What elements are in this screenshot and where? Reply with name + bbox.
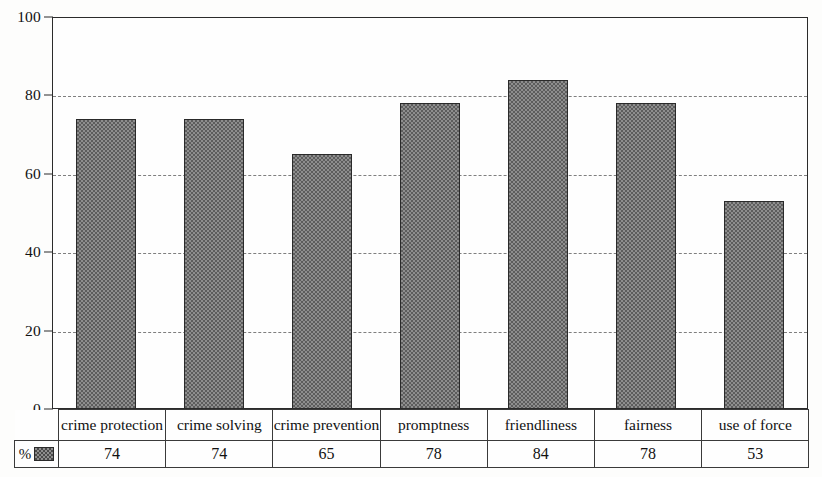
value-promptness: 78: [380, 441, 487, 468]
table-row-categories: crime protection crime solving crime pre…: [15, 410, 809, 441]
y-tick-label-100: 100: [17, 8, 41, 26]
category-label-use-of-force: use of force: [702, 410, 809, 441]
value-use-of-force: 53: [702, 441, 809, 468]
bar-crime-solving[interactable]: [184, 119, 244, 409]
category-label-promptness: promptness: [380, 410, 487, 441]
data-table: crime protection crime solving crime pre…: [14, 409, 809, 468]
value-crime-protection: 74: [59, 441, 166, 468]
value-friendliness: 84: [487, 441, 594, 468]
bar-slot-crime-protection: [52, 17, 160, 409]
bar-slot-crime-solving: [160, 17, 268, 409]
y-tick-label-60: 60: [25, 165, 41, 183]
value-fairness: 78: [594, 441, 701, 468]
bar-series: [52, 17, 808, 409]
legend-percent-label: %: [19, 447, 32, 462]
bar-slot-promptness: [376, 17, 484, 409]
y-tick-label-40: 40: [25, 243, 41, 261]
bar-crime-prevention[interactable]: [292, 154, 352, 409]
y-tick-label-80: 80: [25, 86, 41, 104]
value-crime-solving: 74: [166, 441, 273, 468]
bar-crime-protection[interactable]: [76, 119, 136, 409]
bar-slot-crime-prevention: [268, 17, 376, 409]
legend-spacer-cell: [15, 410, 59, 441]
legend-cell: %: [15, 441, 59, 468]
bar-promptness[interactable]: [400, 103, 460, 409]
y-tick-label-20: 20: [25, 322, 41, 340]
bar-slot-friendliness: [484, 17, 592, 409]
table-row-values: % 74 74 65 78 84 78 53: [15, 441, 809, 468]
chart-page: 100 80 60 40 20 0: [0, 0, 822, 477]
category-label-fairness: fairness: [594, 410, 701, 441]
bar-use-of-force[interactable]: [724, 201, 784, 409]
data-table-wrap: crime protection crime solving crime pre…: [14, 409, 809, 468]
bar-slot-fairness: [592, 17, 700, 409]
value-crime-prevention: 65: [273, 441, 380, 468]
category-label-crime-prevention: crime prevention: [273, 410, 380, 441]
bar-fairness[interactable]: [616, 103, 676, 409]
bar-slot-use-of-force: [700, 17, 808, 409]
category-label-crime-protection: crime protection: [59, 410, 166, 441]
category-label-friendliness: friendliness: [487, 410, 594, 441]
checkered-gray-swatch-icon: [34, 447, 54, 461]
y-axis: 100 80 60 40 20 0: [0, 0, 52, 477]
category-label-crime-solving: crime solving: [166, 410, 273, 441]
bar-friendliness[interactable]: [508, 80, 568, 409]
